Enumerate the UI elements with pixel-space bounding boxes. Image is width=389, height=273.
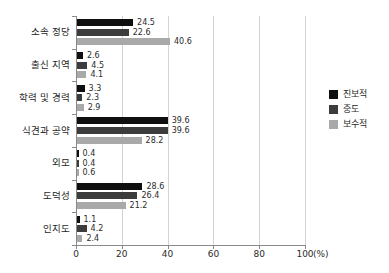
bar-value-label: 4.2 bbox=[91, 224, 104, 233]
y-tick-1 bbox=[72, 49, 76, 50]
bar-value-label: 22.6 bbox=[133, 28, 151, 37]
legend-item-label: 보수적 bbox=[343, 119, 367, 130]
x-axis-tick-labels: 020406080100 bbox=[0, 249, 389, 263]
bar-value-label: 24.5 bbox=[137, 18, 155, 27]
x-tick-label-60: 60 bbox=[208, 249, 219, 259]
x-tick-label-100: 100 bbox=[296, 249, 313, 259]
gridline-80 bbox=[259, 16, 260, 245]
gridline-100 bbox=[305, 16, 306, 245]
y-tick-5 bbox=[72, 180, 76, 181]
bar bbox=[77, 62, 87, 69]
bar-value-label: 4.5 bbox=[91, 61, 104, 70]
y-tick-2 bbox=[72, 81, 76, 82]
bar-value-label: 2.9 bbox=[88, 103, 101, 112]
y-category-label: 외모 bbox=[52, 157, 70, 168]
bar-value-label: 2.4 bbox=[86, 234, 99, 243]
x-axis-line bbox=[76, 245, 305, 246]
y-category-label: 소속 정당 bbox=[31, 26, 70, 37]
y-tick-3 bbox=[72, 114, 76, 115]
y-category-label: 인지도 bbox=[43, 223, 70, 234]
x-tick-label-40: 40 bbox=[162, 249, 173, 259]
bar-value-label: 39.6 bbox=[172, 126, 190, 135]
bar bbox=[77, 94, 82, 101]
bar-value-label: 2.3 bbox=[86, 93, 99, 102]
bar bbox=[77, 117, 168, 124]
bar-value-label: 0.6 bbox=[83, 168, 96, 177]
y-tick-0 bbox=[72, 16, 76, 17]
y-category-label: 식견과 공약 bbox=[22, 125, 70, 136]
legend-item[interactable]: 진보적 bbox=[329, 88, 387, 101]
bar bbox=[77, 85, 85, 92]
bar bbox=[77, 150, 79, 157]
chart-legend: 진보적중도보수적 bbox=[329, 88, 387, 133]
bar-value-label: 28.2 bbox=[146, 136, 164, 145]
bar-value-label: 21.2 bbox=[130, 201, 148, 210]
legend-item-label: 중도 bbox=[343, 104, 359, 115]
bar bbox=[77, 225, 87, 232]
legend-swatch-icon bbox=[329, 90, 338, 99]
bar-value-label: 4.1 bbox=[90, 70, 103, 79]
gridline-60 bbox=[213, 16, 214, 245]
legend-item-label: 진보적 bbox=[343, 89, 367, 100]
x-tick-label-20: 20 bbox=[116, 249, 127, 259]
bar bbox=[77, 192, 137, 199]
legend-item[interactable]: 보수적 bbox=[329, 118, 387, 131]
bar bbox=[77, 169, 79, 176]
bar bbox=[77, 29, 129, 36]
bar bbox=[77, 38, 170, 45]
bar bbox=[77, 127, 168, 134]
y-category-label: 학력 및 경력 bbox=[19, 92, 70, 103]
bar bbox=[77, 183, 142, 190]
y-category-label: 도덕성 bbox=[43, 190, 70, 201]
bar bbox=[77, 52, 83, 59]
bar bbox=[77, 19, 133, 26]
bar bbox=[77, 160, 79, 167]
bar-value-label: 2.6 bbox=[87, 51, 100, 60]
legend-item[interactable]: 중도 bbox=[329, 103, 387, 116]
bar-value-label: 0.4 bbox=[83, 159, 96, 168]
x-tick-label-80: 80 bbox=[253, 249, 264, 259]
legend-swatch-icon bbox=[329, 120, 338, 129]
bar bbox=[77, 235, 82, 242]
y-axis-category-labels: 소속 정당출신 지역학력 및 경력식견과 공약외모도덕성인지도 bbox=[0, 16, 70, 245]
bar bbox=[77, 71, 86, 78]
x-axis-unit-label: (%) bbox=[313, 249, 329, 259]
y-tick-6 bbox=[72, 212, 76, 213]
x-tick-label-0: 0 bbox=[73, 249, 79, 259]
gridline-40 bbox=[168, 16, 169, 245]
bar bbox=[77, 104, 84, 111]
bar bbox=[77, 137, 142, 144]
bar-value-label: 26.4 bbox=[141, 191, 159, 200]
plot-area: 24.522.640.62.64.54.13.32.32.939.639.628… bbox=[76, 16, 305, 245]
bar-value-label: 40.6 bbox=[174, 37, 192, 46]
legend-swatch-icon bbox=[329, 105, 338, 114]
bar-value-label: 28.6 bbox=[146, 182, 164, 191]
bar-value-label: 1.1 bbox=[84, 215, 97, 224]
y-tick-4 bbox=[72, 147, 76, 148]
bar bbox=[77, 202, 126, 209]
bar-chart: 소속 정당출신 지역학력 및 경력식견과 공약외모도덕성인지도 24.522.6… bbox=[0, 0, 389, 273]
bar-value-label: 3.3 bbox=[89, 84, 102, 93]
bar bbox=[77, 216, 80, 223]
y-category-label: 출신 지역 bbox=[31, 59, 70, 70]
bar-value-label: 0.4 bbox=[83, 149, 96, 158]
bar-value-label: 39.6 bbox=[172, 116, 190, 125]
